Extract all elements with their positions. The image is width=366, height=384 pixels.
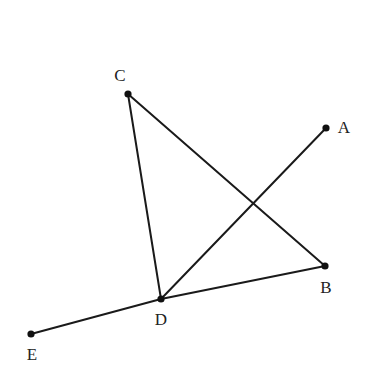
- point-D-icon: [157, 295, 164, 302]
- segment-ED: [31, 299, 161, 334]
- point-A-icon: [322, 124, 329, 131]
- point-B-icon: [321, 262, 328, 269]
- point-E-icon: [27, 330, 34, 337]
- segment-CB: [128, 94, 325, 266]
- geometry-figure: [0, 0, 366, 384]
- points: [27, 90, 329, 337]
- label-D: D: [155, 311, 167, 328]
- segment-DA: [161, 128, 326, 299]
- segment-DB: [161, 266, 325, 299]
- segment-CD: [128, 94, 161, 299]
- segments: [31, 94, 326, 334]
- label-C: C: [114, 67, 125, 84]
- point-C-icon: [124, 90, 131, 97]
- label-B: B: [320, 279, 331, 296]
- diagram-canvas: A B C D E: [0, 0, 366, 384]
- label-E: E: [27, 346, 37, 363]
- label-A: A: [338, 119, 350, 136]
